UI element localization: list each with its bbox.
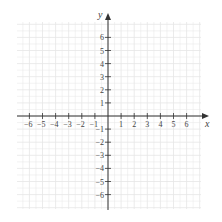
y-tick-label: −6	[95, 191, 104, 200]
y-tick-label: 2	[100, 86, 104, 95]
y-axis-arrow-icon	[105, 13, 111, 20]
x-tick-label: −2	[76, 120, 85, 129]
x-axis-label: x	[204, 118, 210, 129]
y-tick-label: 6	[100, 33, 104, 42]
y-tick-label: −2	[95, 138, 104, 147]
x-tick-label: 5	[172, 120, 176, 129]
tick-labels: −6−5−4−3−2−1123456654321−1−2−3−4−5−6	[24, 33, 189, 199]
y-tick-label: −4	[95, 164, 104, 173]
x-tick-label: 2	[132, 120, 136, 129]
y-tick-label: 3	[100, 73, 104, 82]
x-tick-label: 6	[185, 120, 189, 129]
x-tick-label: 3	[145, 120, 149, 129]
y-axis-label: y	[97, 9, 103, 20]
x-tick-label: 4	[158, 120, 162, 129]
x-tick-label: 1	[119, 120, 123, 129]
y-tick-label: 1	[100, 99, 104, 108]
y-tick-label: −1	[95, 125, 104, 134]
x-tick-label: −4	[50, 120, 59, 129]
x-tick-label: −3	[63, 120, 72, 129]
y-tick-label: −5	[95, 178, 104, 187]
coordinate-plane: −6−5−4−3−2−1123456654321−1−2−3−4−5−6 x y	[0, 0, 222, 222]
y-tick-label: 4	[100, 60, 104, 69]
y-tick-label: −3	[95, 151, 104, 160]
x-tick-label: −6	[24, 120, 33, 129]
y-tick-label: 5	[100, 47, 104, 56]
x-tick-label: −5	[37, 120, 46, 129]
